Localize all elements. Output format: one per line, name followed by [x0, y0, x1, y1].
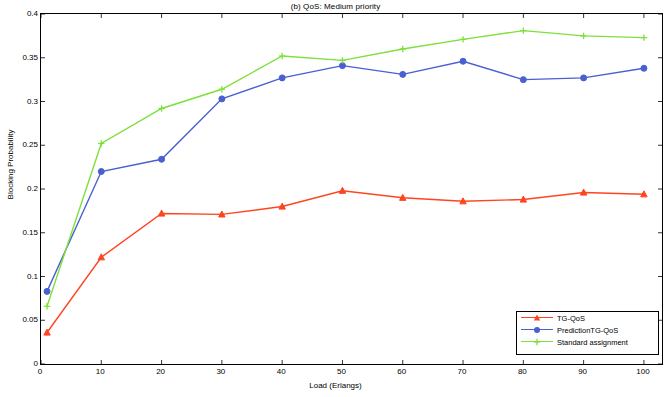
legend-item: PredictionTG-QoS — [517, 324, 658, 336]
x-tick-label: 30 — [216, 367, 225, 376]
legend-sample-plus-icon — [519, 336, 555, 348]
legend-label: Standard assignment — [555, 338, 628, 347]
y-tick-label: 0.35 — [2, 52, 38, 61]
x-tick-label: 40 — [277, 367, 286, 376]
y-tick-label: 0.4 — [2, 9, 38, 18]
x-axis-label: Load (Erlangs) — [0, 381, 671, 390]
legend-sample-circle-icon — [519, 324, 555, 336]
chart-title: (b) QoS: Medium priority — [0, 2, 671, 11]
x-tick-label: 60 — [397, 367, 406, 376]
y-axis-label: Blocking Probability — [6, 105, 15, 225]
y-tick-label: 0.05 — [2, 315, 38, 324]
legend-item: TG-QoS — [517, 312, 658, 324]
chart-container: (b) QoS: Medium priority 00.050.10.150.2… — [0, 0, 671, 397]
x-tick-label: 10 — [96, 367, 105, 376]
x-tick-label: 90 — [578, 367, 587, 376]
legend-label: TG-QoS — [555, 314, 585, 323]
chart-legend: TG-QoSPredictionTG-QoSStandard assignmen… — [516, 311, 659, 355]
x-tick-label: 0 — [38, 367, 42, 376]
x-tick-label: 20 — [156, 367, 165, 376]
y-tick-label: 0.1 — [2, 271, 38, 280]
y-tick-label: 0.15 — [2, 227, 38, 236]
y-tick-label: 0 — [2, 359, 38, 368]
x-tick-label: 100 — [636, 367, 649, 376]
x-tick-label: 70 — [458, 367, 467, 376]
legend-sample-triangle-icon — [519, 312, 555, 324]
legend-label: PredictionTG-QoS — [555, 326, 618, 335]
x-tick-label: 50 — [337, 367, 346, 376]
legend-item: Standard assignment — [517, 336, 658, 348]
x-tick-label: 80 — [518, 367, 527, 376]
